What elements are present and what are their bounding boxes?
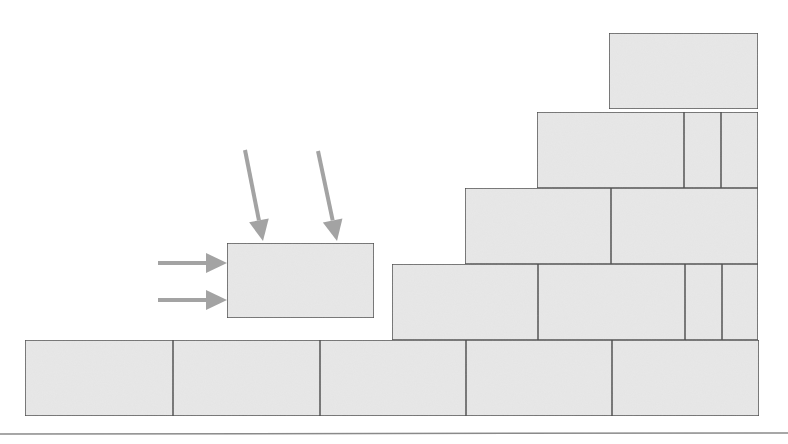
wall-block: [721, 112, 758, 188]
stepped-wall: [25, 33, 759, 416]
wall-block: [609, 33, 758, 109]
stepped-block-wall-diagram: [0, 0, 788, 444]
wall-block: [722, 264, 758, 340]
arrow-diagonal-right-icon: [318, 151, 342, 241]
diagram-stage: [0, 0, 788, 444]
wall-block: [173, 340, 320, 416]
wall-block: [685, 264, 722, 340]
loose-block: [227, 243, 374, 318]
wall-block: [537, 112, 684, 188]
arrow-diagonal-left-icon: [245, 150, 269, 241]
row-4: [537, 112, 758, 188]
row-3: [465, 188, 758, 264]
loose-block-group: [227, 243, 374, 318]
wall-block: [538, 264, 685, 340]
arrow-horizontal-lower-icon: [158, 290, 227, 310]
row-2: [392, 264, 758, 340]
wall-block: [320, 340, 466, 416]
ground-line: [0, 433, 788, 434]
wall-block: [25, 340, 173, 416]
arrow-horizontal-upper-icon: [158, 253, 227, 273]
wall-block: [612, 340, 759, 416]
wall-block: [392, 264, 538, 340]
wall-block: [465, 188, 611, 264]
row-1-bottom: [25, 340, 759, 416]
wall-block: [611, 188, 758, 264]
ground-line: [0, 433, 788, 434]
wall-block: [466, 340, 612, 416]
row-5-top: [609, 33, 758, 109]
wall-block: [684, 112, 721, 188]
